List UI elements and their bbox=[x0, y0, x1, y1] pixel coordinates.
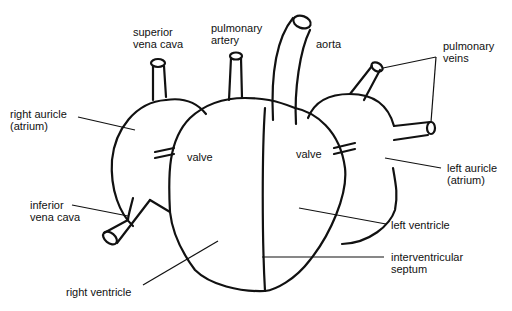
pulmonary-veins-shape bbox=[350, 66, 430, 140]
label-pulmonary-veins: pulmonary veins bbox=[443, 40, 494, 64]
aorta-shape bbox=[273, 18, 310, 124]
label-pulmonary-artery: pulmonary artery bbox=[211, 22, 262, 46]
valve-left-shape bbox=[334, 143, 355, 154]
superior-vena-cava-shape bbox=[153, 66, 166, 100]
label-right-auricle: right auricle (atrium) bbox=[10, 108, 67, 132]
pulmonary-artery-shape bbox=[229, 58, 242, 100]
inferior-vena-cava-shape bbox=[104, 198, 150, 243]
label-left-ventricle: left ventricle bbox=[391, 219, 450, 231]
right-auricle-shape bbox=[112, 100, 166, 226]
heart-diagram: superior vena cava pulmonary artery aort… bbox=[0, 0, 512, 311]
label-interventricular-septum: interventricular septum bbox=[391, 251, 463, 275]
label-left-auricle: left auricle (atrium) bbox=[447, 162, 497, 186]
label-right-ventricle: right ventricle bbox=[66, 286, 131, 298]
label-aorta: aorta bbox=[316, 38, 341, 50]
heart-body-shape bbox=[169, 98, 345, 291]
label-valve-left: valve bbox=[296, 148, 322, 160]
septum-line bbox=[263, 108, 265, 291]
label-superior-vena-cava: superior vena cava bbox=[133, 26, 183, 50]
label-inferior-vena-cava: inferior vena cava bbox=[30, 199, 80, 223]
label-valve-right: valve bbox=[187, 151, 213, 163]
left-auricle-shape bbox=[308, 94, 396, 244]
